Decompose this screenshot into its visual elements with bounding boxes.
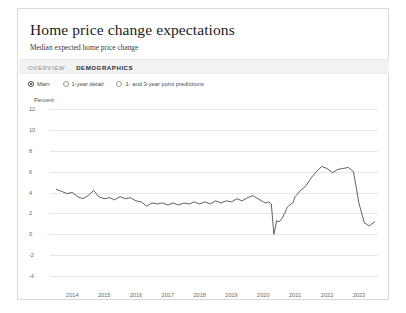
chart-card: Home price change expectations Median ex… (17, 8, 389, 300)
x-axis-tick-label: 2023 (353, 292, 365, 298)
page-subtitle: Median expected home price change (30, 43, 378, 53)
x-axis-tick-label: 2015 (98, 292, 110, 298)
y-axis-tick-label: -4 (29, 273, 46, 279)
series-line (50, 109, 378, 276)
series-path (56, 166, 374, 234)
radio-dot-icon (116, 81, 122, 87)
radio-label-one-year-detail: 1-year detail (72, 81, 104, 88)
x-axis-tick-label: 2021 (289, 292, 301, 298)
x-axis-tick-label: 2016 (130, 292, 142, 298)
page-title: Home price change expectations (30, 21, 378, 39)
x-axis-tick-label: 2014 (66, 292, 78, 298)
y-axis-tick-label: 10 (29, 127, 46, 133)
line-chart: Percent 121086420-2-42014201520162017201… (29, 97, 378, 291)
screenshot-root: Home price change expectations Median ex… (0, 0, 406, 313)
radio-dot-icon (63, 81, 69, 87)
y-axis-unit-label: Percent (34, 97, 54, 103)
y-axis-tick-label: 6 (29, 169, 46, 175)
y-axis-tick-label: -2 (29, 252, 46, 258)
y-axis-tick-label: 8 (29, 148, 46, 154)
card-header: Home price change expectations Median ex… (30, 21, 378, 53)
x-axis-tick-label: 2017 (162, 292, 174, 298)
radio-option-one-year-detail[interactable]: 1-year detail (63, 81, 104, 88)
y-axis-tick-label: 4 (29, 190, 46, 196)
radio-option-main[interactable]: Main (28, 81, 50, 88)
x-axis-tick-label: 2022 (321, 292, 333, 298)
radio-label-main: Main (37, 81, 50, 88)
y-axis-tick-label: 2 (29, 210, 46, 216)
radio-option-point-predictions[interactable]: 1- and 3-year point predictions (116, 81, 203, 88)
radio-group: Main 1-year detail 1- and 3-year point p… (28, 79, 204, 89)
x-axis-tick-label: 2018 (193, 292, 205, 298)
radio-dot-icon (28, 81, 34, 87)
x-axis-tick-label: 2020 (257, 292, 269, 298)
grid-line (50, 276, 378, 277)
radio-label-point-predictions: 1- and 3-year point predictions (125, 81, 203, 88)
y-axis-tick-label: 12 (29, 106, 46, 112)
y-axis-tick-label: 0 (29, 231, 46, 237)
tab-bar: OVERVIEW DEMOGRAPHICS (28, 61, 133, 73)
x-axis-tick-label: 2019 (225, 292, 237, 298)
tab-demographics[interactable]: DEMOGRAPHICS (76, 64, 133, 71)
tab-overview[interactable]: OVERVIEW (28, 64, 65, 71)
